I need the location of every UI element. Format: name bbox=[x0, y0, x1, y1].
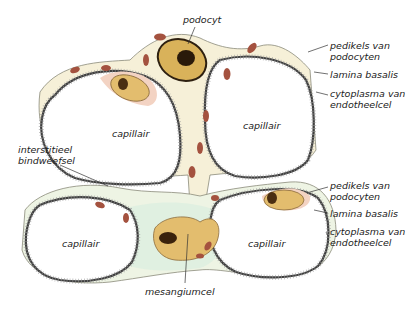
label-interstitieel: interstitieel bindweefsel bbox=[18, 144, 75, 166]
label-cytoplasma-top-line2: endotheelcel bbox=[330, 99, 405, 110]
label-interstitieel-line2: bindweefsel bbox=[18, 155, 75, 166]
label-pedikels-top-line1: pedikels van bbox=[330, 40, 390, 51]
label-cytoplasma-bottom-line2: endotheelcel bbox=[330, 237, 405, 248]
label-cytoplasma-top: cytoplasma van endotheelcel bbox=[330, 88, 405, 110]
label-pedikels-top: pedikels van podocyten bbox=[330, 40, 390, 62]
label-capillair-bottom-right: capillair bbox=[248, 238, 285, 249]
label-lamina-top: lamina basalis bbox=[330, 69, 398, 80]
label-podocyt: podocyt bbox=[183, 14, 221, 25]
label-capillair-bottom-left: capillair bbox=[62, 238, 99, 249]
label-capillair-top-right: capillair bbox=[243, 120, 280, 131]
label-pedikels-bottom: pedikels van podocyten bbox=[330, 180, 390, 202]
label-pedikels-bottom-line1: pedikels van bbox=[330, 180, 390, 191]
label-pedikels-top-line2: podocyten bbox=[330, 51, 390, 62]
label-cytoplasma-bottom: cytoplasma van endotheelcel bbox=[330, 226, 405, 248]
label-capillair-top-left: capillair bbox=[112, 128, 149, 139]
label-cytoplasma-top-line1: cytoplasma van bbox=[330, 88, 405, 99]
label-mesangiumcel: mesangiumcel bbox=[145, 286, 215, 297]
label-cytoplasma-bottom-line1: cytoplasma van bbox=[330, 226, 405, 237]
label-interstitieel-line1: interstitieel bbox=[18, 144, 75, 155]
label-lamina-bottom: lamina basalis bbox=[330, 208, 398, 219]
label-pedikels-bottom-line2: podocyten bbox=[330, 191, 390, 202]
capillary-top-right bbox=[205, 57, 314, 178]
